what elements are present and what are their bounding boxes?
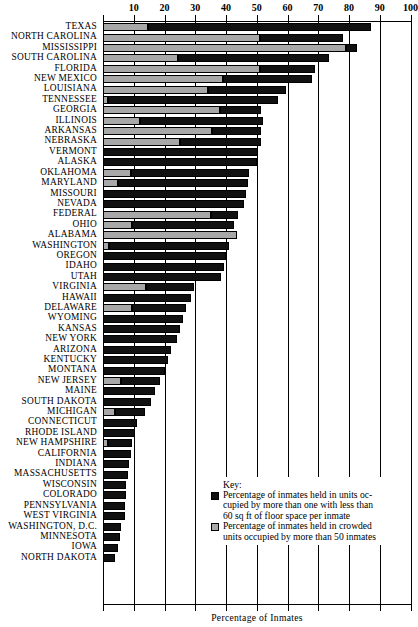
stacked-bar [103, 387, 155, 395]
x-tick-label-20: 20 [160, 3, 170, 13]
x-tick-bottom-10 [134, 604, 135, 611]
bar-segment-under-60-sqft [103, 273, 221, 281]
x-tick-bottom-60 [288, 604, 289, 611]
row-label-ohio: OHIO [73, 219, 97, 229]
legend-swatch-gray-icon [211, 523, 219, 531]
bar-segment-under-60-sqft [140, 117, 263, 125]
stacked-bar [103, 408, 145, 416]
bar-segment-crowded [103, 304, 132, 312]
row-label-new-york: NEW YORK [45, 333, 97, 343]
bar-segment-under-60-sqft [132, 221, 233, 229]
stacked-bar [103, 419, 137, 427]
stacked-bar [103, 273, 221, 281]
stacked-bar [103, 127, 261, 135]
row-label-wisconsin: WISCONSIN [43, 479, 97, 489]
stacked-bar [103, 117, 263, 125]
bar-segment-under-60-sqft [103, 158, 257, 166]
row-label-federal: FEDERAL [53, 208, 97, 218]
x-tick-bottom-30 [195, 604, 196, 611]
stacked-bar [103, 231, 237, 239]
stacked-bar [103, 96, 278, 104]
stacked-bar [103, 148, 258, 156]
bar-segment-under-60-sqft [131, 169, 249, 177]
bar-segment-under-60-sqft [103, 356, 168, 364]
stacked-bar [103, 325, 180, 333]
stacked-bar [103, 221, 234, 229]
chart-row: OREGON [0, 251, 415, 261]
row-label-alaska: ALASKA [57, 156, 97, 166]
bar-segment-under-60-sqft [103, 190, 246, 198]
row-label-california: CALIFORNIA [38, 448, 97, 458]
row-label-south-carolina: SOUTH CAROLINA [11, 52, 97, 62]
bar-segment-under-60-sqft [212, 127, 261, 135]
bar-segment-crowded [103, 44, 346, 52]
x-tick-bottom-40 [226, 604, 227, 611]
stacked-bar [103, 242, 229, 250]
bar-segment-under-60-sqft [260, 34, 343, 42]
bar-segment-crowded [103, 138, 180, 146]
row-label-nevada: NEVADA [57, 198, 97, 208]
bar-segment-under-60-sqft [103, 315, 183, 323]
stacked-bar [103, 65, 315, 73]
row-label-tennessee: TENNESSEE [42, 94, 97, 104]
legend-label-gray-line-2: units occupied by more than 50 inmates [223, 532, 409, 542]
bar-segment-crowded [103, 117, 140, 125]
row-label-virginia: VIRGINIA [52, 281, 97, 291]
bar-segment-under-60-sqft [103, 263, 224, 271]
bar-segment-under-60-sqft [103, 346, 171, 354]
x-tick-label-10: 10 [129, 3, 139, 13]
row-label-maine: MAINE [65, 385, 97, 395]
row-label-kentucky: KENTUCKY [43, 354, 97, 364]
stacked-bar [103, 502, 125, 510]
bar-segment-crowded [103, 408, 115, 416]
bar-segment-under-60-sqft [260, 65, 315, 73]
row-label-washington: WASHINGTON [32, 240, 97, 250]
row-label-west-virginia: WEST VIRGINIA [24, 510, 97, 520]
row-label-minnesota: MINNESOTA [40, 531, 97, 541]
x-tick-bottom-70 [318, 604, 319, 611]
row-label-rhode-island: RHODE ISLAND [25, 427, 97, 437]
row-label-massachusetts: MASSACHUSETTS [14, 468, 97, 478]
stacked-bar [103, 439, 132, 447]
row-label-wyoming: WYOMING [48, 312, 97, 322]
stacked-bar [103, 294, 191, 302]
bar-segment-under-60-sqft [103, 148, 258, 156]
x-tick-bottom-50 [257, 604, 258, 611]
row-label-iowa: IOWA [72, 541, 97, 551]
row-label-kansas: KANSAS [58, 323, 97, 333]
row-label-illinois: ILLINOIS [55, 115, 97, 125]
bar-segment-crowded [103, 179, 118, 187]
bar-segment-under-60-sqft [103, 398, 151, 406]
stacked-bar [103, 263, 224, 271]
x-tick-bottom-20 [165, 604, 166, 611]
row-label-pennsylvania: PENNSYLVANIA [24, 500, 97, 510]
legend-swatch-dark-icon [211, 492, 219, 500]
stacked-bar [103, 34, 343, 42]
x-tick-label-30: 30 [190, 3, 200, 13]
row-label-south-dakota: SOUTH DAKOTA [22, 396, 97, 406]
row-label-colorado: COLORADO [43, 489, 97, 499]
row-label-georgia: GEORGIA [53, 104, 97, 114]
bar-segment-crowded [103, 23, 148, 31]
bar-segment-crowded [103, 231, 237, 239]
bar-segment-under-60-sqft [180, 138, 261, 146]
bar-segment-under-60-sqft [103, 335, 177, 343]
row-label-vermont: VERMONT [49, 146, 97, 156]
x-tick-bottom-100 [411, 604, 412, 611]
row-label-indiana: INDIANA [55, 458, 97, 468]
row-label-new-jersey: NEW JERSEY [38, 375, 97, 385]
bar-segment-crowded [103, 377, 121, 385]
bar-segment-under-60-sqft [146, 283, 194, 291]
bar-segment-under-60-sqft [103, 481, 126, 489]
bar-segment-under-60-sqft [346, 44, 357, 52]
stacked-bar [103, 75, 312, 83]
bar-segment-crowded [103, 65, 260, 73]
stacked-bar [103, 450, 131, 458]
stacked-bar [103, 335, 177, 343]
x-tick-label-50: 50 [252, 3, 262, 13]
x-tick-label-80: 80 [344, 3, 354, 13]
row-label-idaho: IDAHO [66, 260, 97, 270]
bar-segment-under-60-sqft [103, 491, 126, 499]
stacked-bar [103, 554, 115, 562]
stacked-bar [103, 512, 125, 520]
